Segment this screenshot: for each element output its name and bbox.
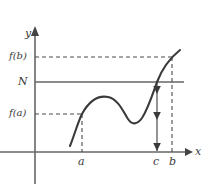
y-tick-label-fa: f(a) (9, 108, 26, 118)
y-axis-arrowhead-icon (31, 26, 39, 36)
y-tick-label-fb: f(b) (9, 51, 27, 61)
y-tick-label-n: N (18, 76, 28, 87)
c-arrowhead-middle-icon (153, 112, 161, 120)
x-axis-label: x (195, 146, 201, 157)
x-axis-arrowhead-icon (185, 148, 193, 156)
x-tick-label-b: b (169, 156, 176, 167)
function-curve (70, 50, 180, 146)
y-axis-label: y (25, 28, 31, 39)
x-tick-label-a: a (78, 156, 85, 167)
intermediate-value-theorem-figure: y x f(b) N f(a) a c b (0, 0, 205, 184)
c-arrowhead-lower-icon (153, 143, 161, 151)
x-tick-label-c: c (153, 156, 159, 167)
